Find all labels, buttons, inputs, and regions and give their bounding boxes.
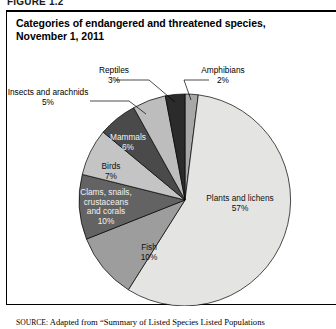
title-line-1: Categories of endangered and threatened … xyxy=(16,17,286,30)
pie-label-birds-value: 7% xyxy=(78,172,144,182)
pie-label-reptiles: Reptiles 3% xyxy=(83,66,145,85)
figure-number: FIGURE 1.2 xyxy=(7,0,63,7)
source-kicker: SOURCE: xyxy=(16,318,48,327)
pie-label-clams-value: 10% xyxy=(62,217,150,227)
page-title: Categories of endangered and threatened … xyxy=(16,17,286,43)
pie-label-reptiles-value: 3% xyxy=(83,76,145,86)
pie-label-mammals-value: 6% xyxy=(92,143,164,153)
title-line-2: November 1, 2011 xyxy=(16,30,286,43)
pie-label-plants-and-lichens: Plants and lichens 57% xyxy=(186,194,294,213)
pie-chart: Reptiles 3% Amphibians 2% Insects and ar… xyxy=(6,48,322,306)
pie-label-fish-value: 10% xyxy=(122,253,176,263)
pie-label-fish: Fish 10% xyxy=(122,243,176,262)
figure-frame-top-rule xyxy=(6,10,336,12)
pie-label-insects-and-arachnids: Insects and arachnids 5% xyxy=(4,88,92,107)
pie-label-clams-snails-crustaceans-and-corals: Clams, snails, crustaceans and corals 10… xyxy=(62,188,150,226)
source-text: Adapted from “Summary of Listed Species … xyxy=(50,317,265,327)
pie-label-birds: Birds 7% xyxy=(78,162,144,181)
source-note: SOURCE: Adapted from “Summary of Listed … xyxy=(16,317,316,328)
pie-label-plants-and-lichens-value: 57% xyxy=(186,204,294,214)
pie-label-insects-and-arachnids-value: 5% xyxy=(4,98,92,108)
pie-label-amphibians: Amphibians 2% xyxy=(182,66,264,85)
pie-label-mammals: Mammals 6% xyxy=(92,133,164,152)
pie-label-amphibians-value: 2% xyxy=(182,76,264,86)
